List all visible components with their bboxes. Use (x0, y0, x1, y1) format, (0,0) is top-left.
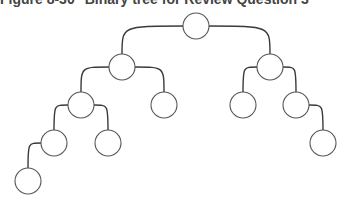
tree-node-l (109, 54, 135, 80)
tree-node-root (183, 13, 209, 39)
tree-node-lr (151, 92, 177, 118)
tree-node-llr (95, 130, 121, 156)
tree-node-rl (230, 92, 256, 118)
tree-node-llll (15, 168, 41, 194)
binary-tree-diagram (0, 0, 347, 202)
tree-edge (243, 67, 257, 92)
tree-nodes (15, 13, 336, 194)
tree-edge (309, 105, 323, 130)
tree-edge (209, 26, 270, 54)
tree-node-r (257, 54, 283, 80)
tree-edge (28, 143, 41, 168)
tree-node-rrr (310, 130, 336, 156)
tree-edge (54, 105, 68, 130)
tree-node-ll (68, 92, 94, 118)
tree-edge (94, 105, 108, 130)
tree-node-rr (283, 92, 309, 118)
tree-edge (81, 67, 109, 92)
tree-edge (135, 67, 164, 92)
tree-edge (122, 26, 183, 54)
tree-edge (283, 67, 296, 92)
tree-node-lll (41, 130, 67, 156)
